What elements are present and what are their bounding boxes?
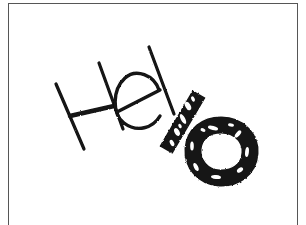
- e-crossbar: [117, 90, 160, 112]
- h-crossbar: [70, 106, 114, 116]
- ink-drawing-svg: [0, 0, 306, 225]
- heavy-ink-strokes: [166, 94, 250, 178]
- handwritten-hello-sketch: [0, 0, 306, 225]
- letter-h: [56, 63, 123, 149]
- letter-o-thick: [193, 125, 250, 178]
- thin-ink-strokes: [56, 47, 174, 149]
- o-ring: [193, 125, 250, 178]
- screenshot-canvas: Hello: [0, 0, 306, 225]
- letter-e: [115, 73, 160, 128]
